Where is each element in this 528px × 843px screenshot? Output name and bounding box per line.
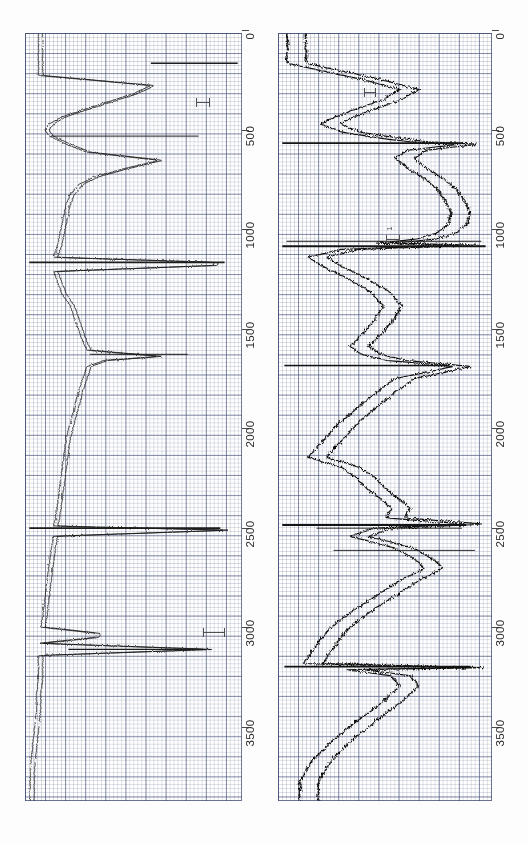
right-trace-group [278,33,492,801]
axis-tick [492,30,499,31]
right-trace-b [286,33,464,801]
log-trace-path [34,33,228,801]
axis-tick [242,30,249,31]
left-trace-group [25,33,242,801]
right-spikes [282,143,485,667]
axis-tick-label: 2500 [244,520,256,547]
axis-tick-label: 3000 [244,619,256,646]
log-trace-path [286,33,464,801]
axis-tick-label: 1000 [494,221,506,248]
left-trace-b [30,33,223,801]
axis-tick-label: 500 [244,126,256,146]
left-log-panel [25,33,242,801]
log-trace-path [305,33,484,801]
right-plot-area [278,33,492,801]
axis-tick-label: 3000 [494,619,506,646]
log-trace-path [30,33,223,801]
axis-tick-label: 1500 [494,321,506,348]
axis-tick-label: 3500 [494,719,506,746]
left-plot-area [25,33,242,801]
right-log-panel: 1 1 [278,33,492,801]
left-spikes [29,63,237,649]
log-figure: 0 500 1000 1500 2000 2500 3000 3500 [0,0,528,843]
axis-tick-label: 0 [244,33,256,40]
right-trace-a [305,33,484,801]
axis-tick-label: 2000 [244,420,256,447]
axis-tick-label: 2000 [494,420,506,447]
right-depth-axis: 0 500 1000 1500 2000 2500 3000 3500 [492,0,528,768]
axis-tick-label: 3500 [244,719,256,746]
axis-tick-label: 2500 [494,520,506,547]
axis-tick-label: 1000 [244,221,256,248]
axis-tick-label: 0 [494,33,506,40]
left-trace-a [34,33,228,801]
axis-tick-label: 1500 [244,321,256,348]
axis-tick-label: 500 [494,126,506,146]
